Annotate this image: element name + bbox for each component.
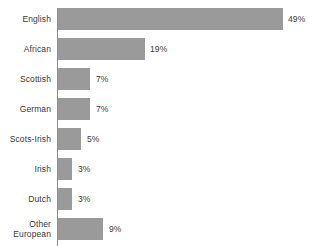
bar-segment xyxy=(58,218,103,240)
bar-segment xyxy=(58,38,145,60)
bar-row: Other European 9% xyxy=(0,218,316,240)
bar-segment xyxy=(58,158,72,180)
bar-segment xyxy=(58,98,90,120)
bar-row: African 19% xyxy=(0,38,316,60)
bar-row: German 7% xyxy=(0,98,316,120)
category-label: Other European xyxy=(0,218,51,240)
bar-value-label: 7% xyxy=(96,98,109,120)
bar-value-label: 19% xyxy=(150,38,167,60)
bar-value-label: 9% xyxy=(109,218,122,240)
category-label: Irish xyxy=(0,158,51,180)
category-label: Scots-Irish xyxy=(0,128,51,150)
category-label: Scottish xyxy=(0,68,51,90)
bar-value-label: 3% xyxy=(78,158,91,180)
bar-row: Scottish 7% xyxy=(0,68,316,90)
bar-row: English 49% xyxy=(0,8,316,30)
bar-value-label: 49% xyxy=(288,8,305,30)
bar-segment xyxy=(58,68,90,90)
category-label: English xyxy=(0,8,51,30)
bar-value-label: 5% xyxy=(87,128,100,150)
bar-row: Scots-Irish 5% xyxy=(0,128,316,150)
category-label: German xyxy=(0,98,51,120)
bar-chart: English 49% African 19% Scottish 7% Germ… xyxy=(0,0,316,246)
bar-row: Dutch 3% xyxy=(0,188,316,210)
bar-segment xyxy=(58,8,283,30)
bar-value-label: 7% xyxy=(96,68,109,90)
category-label: Dutch xyxy=(0,188,51,210)
plot-area: English 49% African 19% Scottish 7% Germ… xyxy=(0,0,316,246)
bar-segment xyxy=(58,188,72,210)
bar-row: Irish 3% xyxy=(0,158,316,180)
category-label: African xyxy=(0,38,51,60)
bar-value-label: 3% xyxy=(78,188,91,210)
bar-segment xyxy=(58,128,81,150)
